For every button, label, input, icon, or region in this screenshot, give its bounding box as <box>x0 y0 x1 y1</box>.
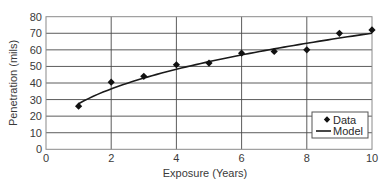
y-tick-label: 0 <box>36 143 42 155</box>
legend: Data Model <box>312 112 368 138</box>
model-line <box>79 33 372 104</box>
x-axis-title: Exposure (Years) <box>163 167 248 179</box>
legend-model-label: Model <box>333 125 363 137</box>
x-tick-label: 4 <box>173 152 179 164</box>
data-point <box>108 79 115 86</box>
y-tick-label: 20 <box>30 110 42 122</box>
y-tick-label: 70 <box>30 27 42 39</box>
legend-data-label: Data <box>333 114 357 126</box>
x-tick-labels: 0246810 <box>43 152 378 164</box>
x-tick-label: 10 <box>366 152 378 164</box>
data-point <box>336 30 343 37</box>
data-point <box>368 26 375 33</box>
y-tick-label: 60 <box>30 44 42 56</box>
y-axis-title: Penetration (mils) <box>7 40 19 126</box>
data-point <box>173 61 180 68</box>
y-tick-label: 10 <box>30 127 42 139</box>
y-tick-label: 80 <box>30 11 42 23</box>
y-tick-label: 30 <box>30 94 42 106</box>
y-tick-labels: 01020304050607080 <box>30 11 42 156</box>
x-tick-label: 2 <box>108 152 114 164</box>
x-tick-label: 6 <box>239 152 245 164</box>
penetration-chart: 01020304050607080 0246810 Exposure (Year… <box>0 0 389 184</box>
x-tick-label: 0 <box>43 152 49 164</box>
y-tick-label: 50 <box>30 60 42 72</box>
data-point <box>303 46 310 53</box>
y-tick-label: 40 <box>30 77 42 89</box>
data-point <box>75 103 82 110</box>
x-tick-label: 8 <box>304 152 310 164</box>
